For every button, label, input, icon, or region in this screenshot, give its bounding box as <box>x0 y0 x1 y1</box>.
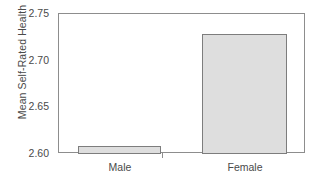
y-tick-label-2-70: 2.70 <box>9 55 49 66</box>
bar-male <box>78 146 161 154</box>
x-tick-mark-divider <box>162 153 163 158</box>
x-tick-label-female: Female <box>200 161 290 173</box>
y-tick-label-2-65: 2.65 <box>9 101 49 112</box>
y-tick-label-2-60: 2.60 <box>9 148 49 159</box>
bar-female <box>202 34 287 154</box>
bar-chart-figure: Mean Self-Rated Health 2.75 2.70 2.65 2.… <box>0 0 321 182</box>
y-axis-title: Mean Self-Rated Health <box>16 0 28 142</box>
y-tick-label-2-75: 2.75 <box>9 8 49 19</box>
x-tick-label-male: Male <box>75 161 165 173</box>
